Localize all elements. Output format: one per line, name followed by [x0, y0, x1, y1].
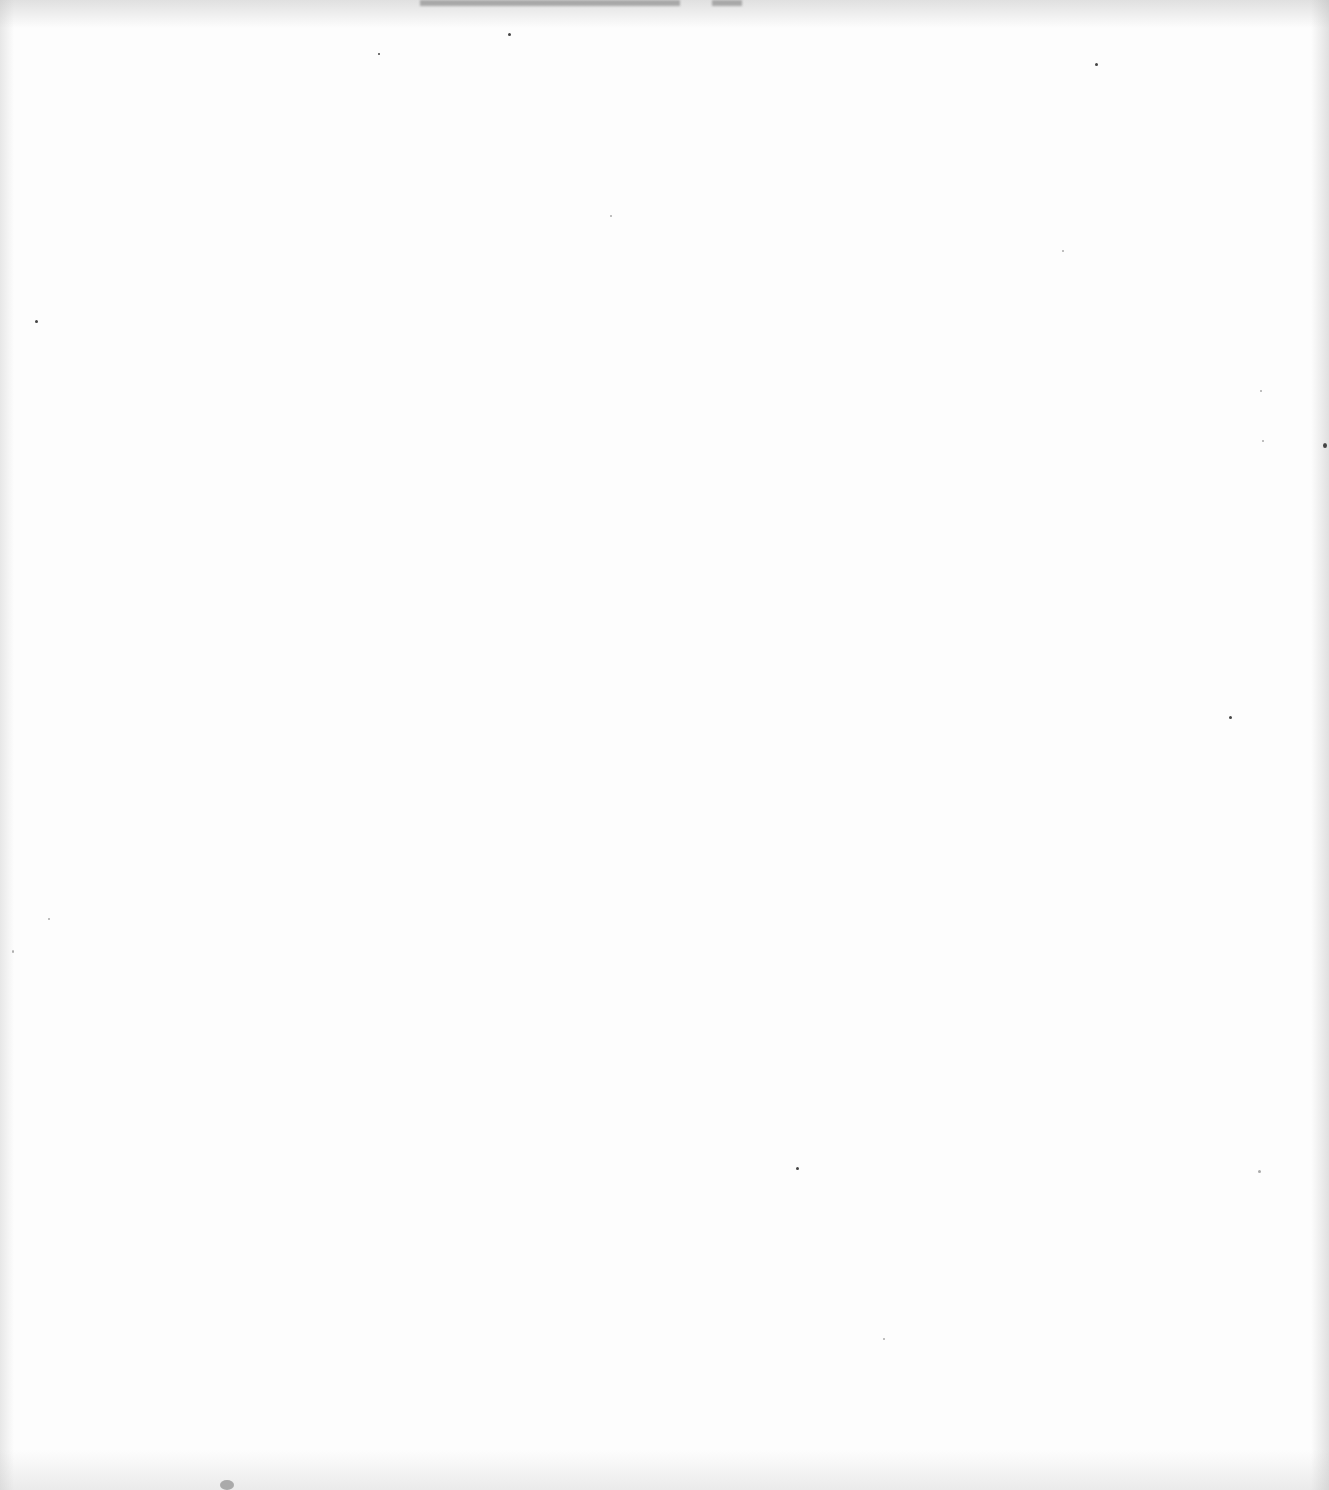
scan-speck	[1260, 390, 1262, 392]
scan-speck	[48, 918, 50, 920]
scan-speck	[610, 215, 612, 217]
scan-speck	[1323, 443, 1327, 448]
scan-speck	[12, 950, 14, 953]
scan-speck	[1062, 250, 1064, 252]
scan-speck	[796, 1167, 799, 1170]
scan-speck	[508, 33, 511, 36]
scan-speck	[883, 1338, 885, 1340]
blank-document-page	[0, 0, 1329, 1490]
scan-edge-right	[1311, 0, 1329, 1490]
scan-speck	[220, 1480, 234, 1490]
scan-speck	[1262, 440, 1264, 442]
scan-speck	[1095, 63, 1098, 66]
scan-edge-bottom	[0, 1450, 1329, 1490]
scan-speck	[1258, 1170, 1261, 1173]
scan-edge-left	[0, 0, 14, 1490]
scan-speck	[378, 53, 380, 55]
scan-edge-mark	[712, 0, 742, 6]
scan-speck	[1229, 716, 1232, 719]
scan-speck	[35, 320, 38, 323]
scan-edge-mark	[420, 0, 680, 6]
